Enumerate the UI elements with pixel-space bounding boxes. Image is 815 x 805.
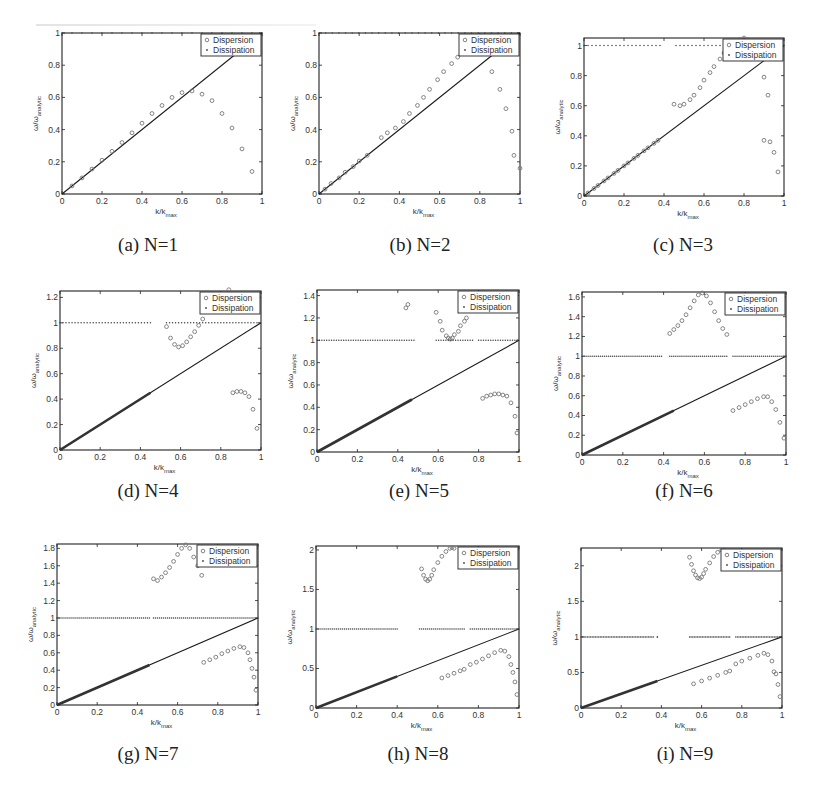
dissipation-marker [710, 636, 712, 638]
dissipation-marker [643, 636, 645, 638]
dissipation-marker [726, 636, 728, 638]
dissipation-marker [700, 636, 702, 638]
dissipation-marker [769, 636, 771, 638]
dissipation-marker [777, 636, 779, 638]
dissipation-marker [761, 636, 763, 638]
dissipation-marker [753, 636, 755, 638]
dissipation-marker [746, 636, 748, 638]
dissipation-marker [624, 636, 626, 638]
dissipation-marker [703, 636, 705, 638]
dissipation-marker [590, 636, 592, 638]
dissipation-marker [778, 636, 780, 638]
dissipation-marker [632, 636, 634, 638]
dissipation-marker [705, 636, 707, 638]
dissipation-marker [721, 636, 723, 638]
dissipation-marker [633, 636, 635, 638]
dissipation-marker [762, 636, 764, 638]
dissipation-marker [608, 636, 610, 638]
dissipation-marker [741, 636, 743, 638]
x-axis-label: k/kmax [675, 721, 697, 732]
x-tick-label: 0.4 [655, 710, 667, 720]
dissipation-marker [625, 636, 627, 638]
dissipation-marker [582, 636, 584, 638]
dissipation-marker [690, 636, 692, 638]
dissipation-marker [583, 636, 585, 638]
dissipation-marker [749, 636, 751, 638]
dissipation-marker [587, 636, 589, 638]
dissipation-marker [695, 636, 697, 638]
dissipation-marker [758, 636, 760, 638]
dissipation-marker [692, 636, 694, 638]
dissipation-marker [588, 636, 590, 638]
dissipation-marker [604, 636, 606, 638]
dissipation-marker [603, 636, 605, 638]
dissipation-marker [645, 636, 647, 638]
x-tick-label: 0 [579, 710, 584, 720]
dissipation-marker [616, 636, 618, 638]
dissipation-marker [754, 636, 756, 638]
dissipation-marker [775, 636, 777, 638]
y-tick-label: 0 [574, 703, 579, 713]
dissipation-marker [723, 636, 725, 638]
dissipation-marker [606, 636, 608, 638]
dissipation-marker [697, 636, 699, 638]
dissipation-marker [764, 636, 766, 638]
dissipation-marker [708, 636, 710, 638]
y-tick-label: 2 [574, 561, 579, 571]
dissipation-marker [630, 636, 632, 638]
dissipation-marker [585, 636, 587, 638]
legend-dispersion-label: Dispersion [733, 550, 773, 560]
dissipation-marker [627, 636, 629, 638]
dissipation-marker [580, 636, 582, 638]
dissipation-marker [727, 636, 729, 638]
dissipation-marker [595, 636, 597, 638]
dissipation-marker [640, 636, 642, 638]
dissipation-marker [743, 636, 745, 638]
y-tick-label: 1.5 [567, 596, 579, 606]
chart-i: 00.20.40.60.8100.511.52k/kmaxω/ωanalytic… [0, 0, 815, 805]
dissipation-marker [751, 636, 753, 638]
dissipation-marker [759, 636, 761, 638]
dissipation-marker [745, 636, 747, 638]
dissipation-marker [702, 636, 704, 638]
dissipation-marker [740, 636, 742, 638]
dissipation-marker [767, 636, 769, 638]
dissipation-marker [600, 636, 602, 638]
dissipation-marker [729, 636, 731, 638]
dissipation-marker [694, 636, 696, 638]
dissipation-marker [638, 636, 640, 638]
dissipation-marker [698, 636, 700, 638]
x-tick-label: 0.6 [696, 710, 708, 720]
dissipation-marker [609, 636, 611, 638]
dissipation-marker [756, 636, 758, 638]
dissipation-marker [719, 636, 721, 638]
dissipation-marker [592, 636, 594, 638]
legend: DispersionDissipation [721, 549, 781, 571]
y-tick-label: 1 [574, 632, 579, 642]
dissipation-marker [596, 636, 598, 638]
dissipation-marker [724, 636, 726, 638]
dissipation-marker [601, 636, 603, 638]
dissipation-marker [598, 636, 600, 638]
dissipation-marker [619, 636, 621, 638]
dissipation-marker [646, 636, 648, 638]
plot-area [581, 548, 782, 708]
dissipation-marker [737, 636, 739, 638]
caption-i: (i) N=9 [657, 743, 714, 765]
legend-dissipation-icon [726, 564, 728, 566]
dissipation-marker [611, 636, 613, 638]
dissipation-marker [715, 636, 717, 638]
dissipation-marker [735, 636, 737, 638]
dissipation-marker [651, 636, 653, 638]
dissipation-marker [770, 636, 772, 638]
dissipation-marker [617, 636, 619, 638]
dissipation-marker [738, 636, 740, 638]
dissipation-marker [711, 636, 713, 638]
dissipation-marker [593, 636, 595, 638]
y-axis-label: ω/ωanalytic [550, 610, 561, 645]
dissipation-marker [772, 636, 774, 638]
x-tick-label: 0.8 [736, 710, 748, 720]
dissipation-marker [620, 636, 622, 638]
dissipation-marker [622, 636, 624, 638]
dissipation-marker [649, 636, 651, 638]
